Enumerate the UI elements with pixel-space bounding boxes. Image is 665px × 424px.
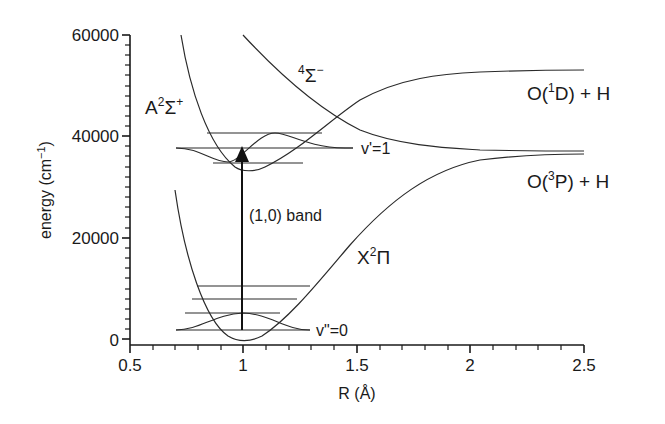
a-state-vibrational-levels bbox=[176, 133, 353, 163]
x-tick-label: 2 bbox=[465, 356, 474, 375]
x-tick-labels: 0.5 1 1.5 2 2.5 bbox=[118, 356, 596, 375]
x-tick-label: 2.5 bbox=[572, 356, 596, 375]
v-lower-label: v"=0 bbox=[316, 322, 348, 339]
quartet-sigma-label: 4Σ− bbox=[298, 63, 323, 86]
x-axis-title: R (Å) bbox=[338, 384, 375, 402]
x-state-label: X2Π bbox=[357, 245, 390, 268]
y-tick-labels: 60000 40000 20000 0 bbox=[72, 26, 119, 350]
x-tick-label: 0.5 bbox=[118, 356, 142, 375]
o1d-label: O(1D) + H bbox=[527, 81, 610, 104]
a-state-label: A2Σ+ bbox=[145, 95, 183, 118]
o3p-label: O(3P) + H bbox=[527, 169, 609, 192]
y-tick-label: 0 bbox=[110, 331, 119, 350]
x-tick-label: 1.5 bbox=[345, 356, 369, 375]
band-label: (1,0) band bbox=[249, 207, 322, 224]
y-tick-label: 40000 bbox=[72, 127, 119, 146]
transition-arrow bbox=[235, 146, 249, 330]
x-tick-label: 1 bbox=[238, 356, 247, 375]
potential-energy-chart: 60000 40000 20000 0 0.5 1 1.5 2 2.5 R (Å… bbox=[0, 0, 665, 424]
y-tick-label: 60000 bbox=[72, 26, 119, 45]
v-upper-label: v'=1 bbox=[361, 140, 390, 157]
y-tick-label: 20000 bbox=[72, 229, 119, 248]
y-axis-title: energy (cm−1) bbox=[35, 141, 54, 239]
